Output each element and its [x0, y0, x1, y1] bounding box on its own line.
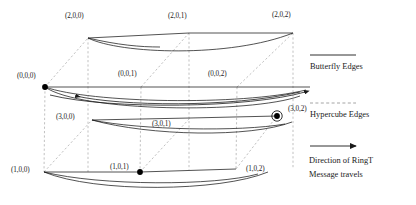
butterfly-edge: [44, 172, 268, 187]
hypercube-edge: [44, 87, 45, 172]
hypercube-edges-group: [44, 33, 293, 172]
node-marker: [274, 113, 280, 119]
node-marker: [137, 169, 143, 175]
hypercube-edge: [141, 33, 189, 87]
figure-canvas: (2,0,0)(2,0,1)(2,0,2)(0,0,0)(0,0,1)(0,0,…: [0, 0, 416, 205]
node-marker: [42, 84, 48, 90]
butterfly-edges-group: [44, 33, 310, 187]
hypercube-edge: [237, 33, 293, 87]
node-label-n001: (0,0,1): [118, 70, 136, 78]
hypercube-edge: [236, 116, 277, 169]
butterfly-edge: [45, 87, 306, 101]
butterfly-edge: [88, 33, 293, 38]
legend-label-hypercube: Hypercube Edges: [310, 110, 369, 119]
node-label-n200: (2,0,0): [65, 12, 83, 20]
node-label-n301: (3,0,1): [152, 120, 170, 128]
legend-label-ring: Direction of RingT: [309, 156, 373, 165]
butterfly-edge: [92, 116, 277, 120]
node-label-n202: (2,0,2): [272, 11, 290, 19]
butterfly-edge: [92, 120, 285, 129]
node-label-n101: (1,0,1): [110, 163, 128, 171]
node-label-n201: (2,0,1): [168, 12, 186, 20]
legend-label-ring2: Message travels: [309, 170, 363, 179]
node-label-n302: (3,0,2): [288, 105, 306, 113]
node-label-n300: (3,0,0): [56, 113, 74, 121]
node-label-n000: (0,0,0): [17, 72, 35, 80]
nodes-group: [42, 84, 282, 175]
butterfly-edge: [88, 33, 293, 51]
butterfly-edge: [92, 120, 292, 133]
hypercube-edge: [45, 38, 88, 87]
hypercube-edge: [44, 120, 92, 172]
node-label-n002: (0,0,2): [208, 70, 226, 78]
legend-label-butterfly: Butterfly Edges: [310, 62, 363, 71]
node-label-n100: (1,0,0): [11, 166, 29, 174]
node-label-n102: (1,0,2): [246, 165, 264, 173]
